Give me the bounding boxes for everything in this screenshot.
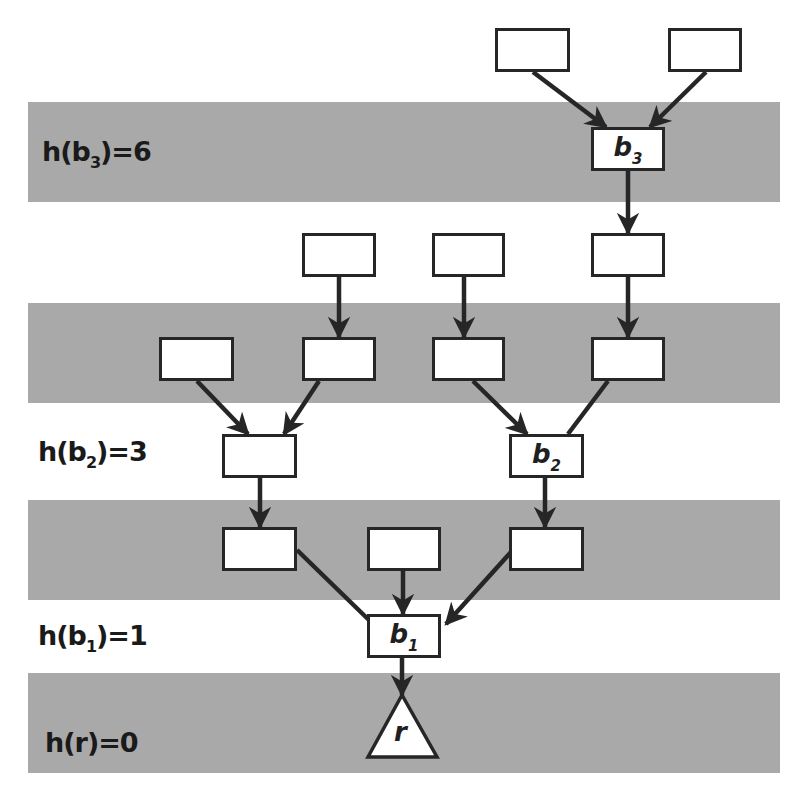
level-label-text: h(b — [38, 436, 86, 467]
block-node — [302, 233, 376, 277]
block-node — [302, 337, 376, 381]
level-label-value: )=3 — [96, 436, 147, 467]
block-node-subscript: 3 — [632, 150, 642, 168]
block-node — [159, 337, 234, 381]
block-node-b1: b1 — [367, 614, 441, 658]
block-node — [222, 434, 297, 478]
level-label-subscript: 3 — [90, 153, 100, 172]
level-label-h-b2: h(b2)=3 — [38, 436, 147, 472]
block-node-label: b3 — [594, 132, 662, 168]
level-label-value: )=6 — [100, 136, 151, 167]
height-diagram: h(b3)=6h(b2)=3h(b1)=1h(r)=0 b3b2b1 r — [0, 0, 801, 801]
level-label-h-b3: h(b3)=6 — [42, 136, 151, 172]
block-node — [591, 233, 665, 277]
block-node — [591, 337, 665, 381]
level-label-text: h(b — [42, 136, 90, 167]
block-node — [432, 233, 505, 277]
block-node — [367, 527, 441, 571]
block-node — [432, 337, 505, 381]
block-node — [495, 28, 570, 72]
level-label-h-b1: h(b1)=1 — [38, 620, 147, 656]
level-label-subscript: 2 — [86, 453, 96, 472]
level-label-text: h(r)=0 — [45, 727, 138, 758]
level-label-value: )=1 — [96, 620, 147, 651]
block-node-b3: b3 — [591, 127, 665, 171]
block-node-b2: b2 — [509, 434, 584, 478]
height-band — [28, 303, 780, 403]
block-node — [222, 527, 297, 571]
block-node-letter: b — [613, 132, 632, 162]
block-node — [668, 28, 742, 72]
block-node-subscript: 1 — [408, 637, 418, 655]
block-node-letter: b — [389, 619, 408, 649]
block-node-letter: b — [532, 439, 551, 469]
block-node-label: b1 — [370, 619, 438, 655]
block-node — [509, 527, 584, 571]
root-label: r — [394, 717, 407, 747]
level-label-text: h(b — [38, 620, 86, 651]
block-node-subscript: 2 — [551, 457, 561, 475]
block-node-label: b2 — [512, 439, 581, 475]
level-label-subscript: 1 — [86, 637, 96, 656]
level-label-h-r: h(r)=0 — [45, 727, 138, 758]
